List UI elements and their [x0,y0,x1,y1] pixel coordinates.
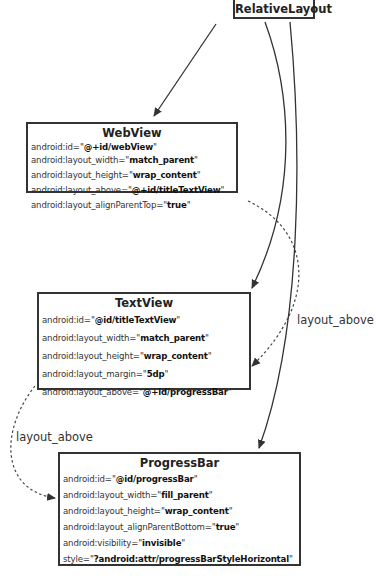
webview-node: WebView android:id="@+id/webView" androi… [26,122,238,193]
textview-title: TextView [39,296,249,311]
relativelayout-node: RelativeLayout [233,0,315,19]
progressbar-attr-style: style="?android:attr/progressBarStyleHor… [60,550,299,568]
edge-webview-textview-dashed [248,201,299,366]
progressbar-node: ProgressBar android:id="@id/progressBar"… [58,452,301,566]
edge-label-webview-textview: layout_above [297,313,374,327]
textview-attr-above: android:layout_above="@+id/progressBar" [39,383,249,401]
textview-attr-width: android:layout_width="match_parent" [39,329,249,347]
textview-attr-id: android:id="@id/titleTextView" [39,311,249,329]
textview-node: TextView android:id="@id/titleTextView" … [37,292,251,390]
textview-attr-height: android:layout_height="wrap_content" [39,347,249,365]
edge-root-webview [154,24,216,116]
textview-attr-margin: android:layout_margin="5dp" [39,365,249,383]
relativelayout-title: RelativeLayout [235,2,332,16]
edge-root-textview [252,22,286,288]
edge-label-textview-progressbar: layout_above [16,430,93,444]
edge-root-progressbar [259,22,297,448]
progressbar-title: ProgressBar [60,456,299,471]
